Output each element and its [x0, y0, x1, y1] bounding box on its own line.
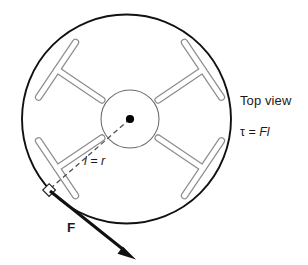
t-handle-lower-left	[39, 111, 121, 196]
torque-diagram-figure: .rim { fill:none; stroke:#111111; stroke…	[0, 0, 308, 265]
torque-symbol: τ =	[240, 125, 259, 139]
torque-equation-label: τ = Fl	[240, 126, 270, 139]
force-vector-shaft	[50, 191, 125, 251]
force-label: F	[67, 221, 75, 235]
lever-arm-label: l = r	[84, 155, 105, 168]
rotation-axis-point	[126, 115, 134, 123]
t-handle-upper-left	[39, 42, 121, 127]
torque-expression: Fl	[259, 125, 269, 139]
top-view-label: Top view	[240, 94, 291, 107]
